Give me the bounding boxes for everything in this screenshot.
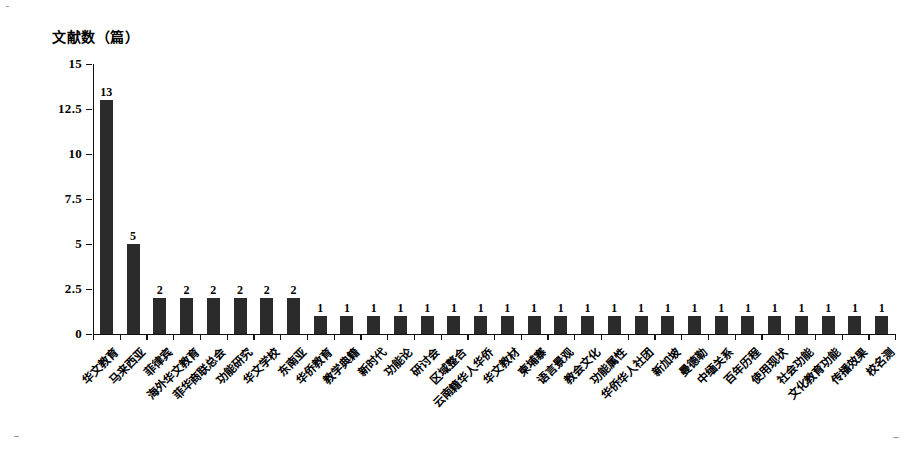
y-axis-tick-label: 5 <box>75 236 82 252</box>
bar-value-label: 2 <box>291 284 297 296</box>
y-axis-tick-mark <box>86 109 92 110</box>
bar-value-label: 1 <box>397 302 403 314</box>
bar-item: 13 <box>100 64 113 334</box>
y-axis-tick-label: 12.5 <box>58 101 82 117</box>
y-axis-tick-mark <box>86 64 92 65</box>
bar-value-label: 1 <box>344 302 350 314</box>
x-axis-tick-mark <box>93 334 94 340</box>
bar-value-label: 2 <box>184 284 190 296</box>
bar-item: 1 <box>795 64 808 334</box>
y-axis-tick-mark <box>86 199 92 200</box>
bar-item: 1 <box>768 64 781 334</box>
bar-item: 1 <box>635 64 648 334</box>
bar-value-label: 13 <box>100 86 112 98</box>
scan-artifact-bottom-left <box>14 436 19 437</box>
bar-value-label: 1 <box>424 302 430 314</box>
bar-value-label: 1 <box>772 302 778 314</box>
bar-item: 1 <box>875 64 888 334</box>
bar-value-label: 1 <box>371 302 377 314</box>
bar-item: 1 <box>447 64 460 334</box>
bar-value-label: 1 <box>611 302 617 314</box>
bar-item: 1 <box>715 64 728 334</box>
bar-item: 1 <box>608 64 621 334</box>
y-axis-tick-mark <box>86 154 92 155</box>
bar-item: 1 <box>822 64 835 334</box>
bar-value-label: 1 <box>665 302 671 314</box>
bar-chart: 文献数（篇） 02.557.51012.515 1352222221111111… <box>0 0 922 452</box>
bar-item: 1 <box>581 64 594 334</box>
bar-item: 5 <box>127 64 140 334</box>
bar-item: 1 <box>340 64 353 334</box>
bar-value-label: 5 <box>130 230 136 242</box>
y-axis-tick-label: 7.5 <box>65 191 82 207</box>
bar-item: 2 <box>153 64 166 334</box>
y-axis-tick-label: 15 <box>68 56 82 72</box>
bar-value-label: 1 <box>638 302 644 314</box>
bar-value-label: 2 <box>157 284 163 296</box>
bar-value-label: 1 <box>558 302 564 314</box>
y-axis-tick-label: 10 <box>68 146 82 162</box>
bar-item: 2 <box>234 64 247 334</box>
bar-item: 1 <box>741 64 754 334</box>
y-axis-title: 文献数（篇） <box>52 26 139 46</box>
bar-item: 1 <box>848 64 861 334</box>
bar-value-label: 1 <box>745 302 751 314</box>
bar-value-label: 1 <box>585 302 591 314</box>
bar-item: 1 <box>367 64 380 334</box>
bar-value-label: 1 <box>317 302 323 314</box>
bar-item: 1 <box>394 64 407 334</box>
bar-item: 2 <box>180 64 193 334</box>
scan-artifact-bottom-right <box>893 437 899 438</box>
bar-item: 1 <box>421 64 434 334</box>
bar-item: 1 <box>688 64 701 334</box>
bar-value-label: 2 <box>210 284 216 296</box>
y-axis-tick-label: 2.5 <box>65 281 82 297</box>
bar-value-label: 1 <box>478 302 484 314</box>
bar-item: 1 <box>501 64 514 334</box>
bar: 13 <box>100 100 113 334</box>
bar-value-label: 1 <box>451 302 457 314</box>
bar-item: 2 <box>260 64 273 334</box>
bar-value-label: 1 <box>825 302 831 314</box>
plot-area: 02.557.51012.515 13522222211111111111111… <box>93 64 895 334</box>
y-axis-tick-label: 0 <box>75 326 82 342</box>
bar-item: 1 <box>554 64 567 334</box>
bar-item: 1 <box>314 64 327 334</box>
bar-value-label: 1 <box>852 302 858 314</box>
bar-item: 1 <box>661 64 674 334</box>
bar-item: 2 <box>207 64 220 334</box>
bar-value-label: 1 <box>718 302 724 314</box>
scan-artifact-top-left <box>6 6 9 7</box>
bar-value-label: 1 <box>504 302 510 314</box>
bar-value-label: 1 <box>798 302 804 314</box>
bar-item: 2 <box>287 64 300 334</box>
y-axis-tick-mark <box>86 334 92 335</box>
y-axis-tick-mark <box>86 244 92 245</box>
bar-item: 1 <box>474 64 487 334</box>
y-axis-tick-mark <box>86 289 92 290</box>
